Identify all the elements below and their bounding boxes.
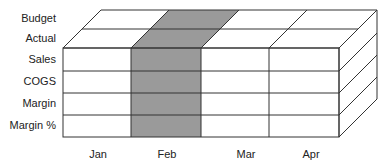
col-label-feb: Feb: [147, 148, 187, 160]
row-label-margin: Margin: [0, 97, 56, 109]
row-label-budget: Budget: [0, 12, 56, 24]
col-label-jan: Jan: [78, 148, 118, 160]
row-label-sales: Sales: [0, 53, 56, 65]
row-label-actual: Actual: [0, 32, 56, 44]
row-label-cogs: COGS: [0, 75, 56, 87]
row-label-margin-pct: Margin %: [0, 119, 56, 131]
cube-diagram: [0, 0, 384, 165]
col-label-mar: Mar: [226, 148, 266, 160]
col-label-apr: Apr: [291, 148, 331, 160]
